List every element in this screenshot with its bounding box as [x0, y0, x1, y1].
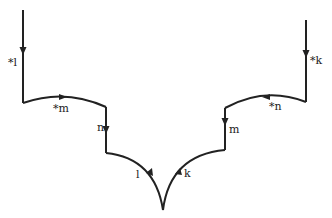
arrow-right-icon [59, 94, 67, 100]
left-lower-arc-edge [106, 153, 163, 210]
arrow-down-icon [303, 50, 310, 58]
edge-label-star-m: *m [53, 103, 69, 114]
edge-label-star-l: *l [8, 57, 17, 68]
edge-label-star-n: *n [269, 101, 282, 112]
diagram-lines [0, 0, 332, 218]
arrow-down-icon [20, 47, 27, 55]
edge-label-star-k: *k [310, 55, 322, 66]
path-diagram: *l *m n l *k *n m k [0, 0, 332, 218]
edge-label-l: l [136, 169, 140, 180]
arrow-down-icon [222, 118, 229, 126]
edge-label-m: m [229, 124, 239, 135]
right-lower-arc-edge [163, 150, 225, 210]
edge-label-n: n [97, 122, 104, 133]
edge-label-k: k [184, 168, 191, 179]
